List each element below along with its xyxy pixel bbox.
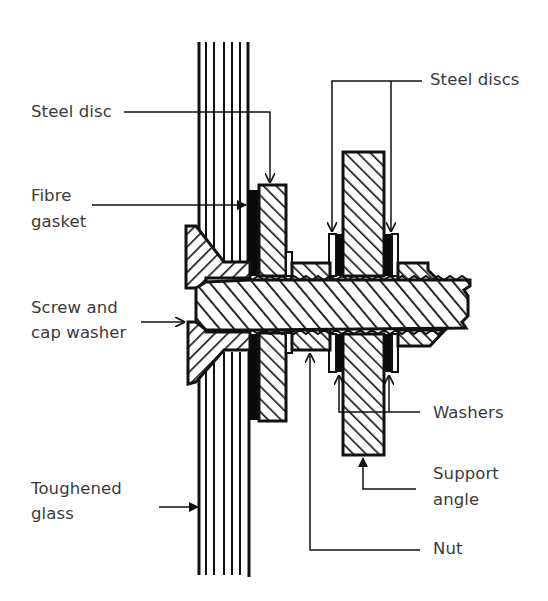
label-support-angle-2: angle bbox=[433, 487, 479, 512]
label-steel-disc: Steel disc bbox=[31, 99, 112, 124]
label-screw-1: Screw and bbox=[31, 295, 118, 320]
label-toughened-glass-2: glass bbox=[31, 501, 74, 526]
label-fibre-gasket-2: gasket bbox=[31, 209, 86, 234]
label-toughened-glass-1: Toughened bbox=[31, 476, 122, 501]
leader-support-angle bbox=[363, 458, 416, 489]
label-nut: Nut bbox=[433, 536, 463, 561]
label-screw-2: cap washer bbox=[31, 320, 127, 345]
label-washers: Washers bbox=[433, 400, 504, 425]
label-steel-discs: Steel discs bbox=[430, 67, 520, 92]
label-fibre-gasket-1: Fibre bbox=[31, 183, 71, 208]
label-support-angle-1: Support bbox=[433, 461, 499, 486]
